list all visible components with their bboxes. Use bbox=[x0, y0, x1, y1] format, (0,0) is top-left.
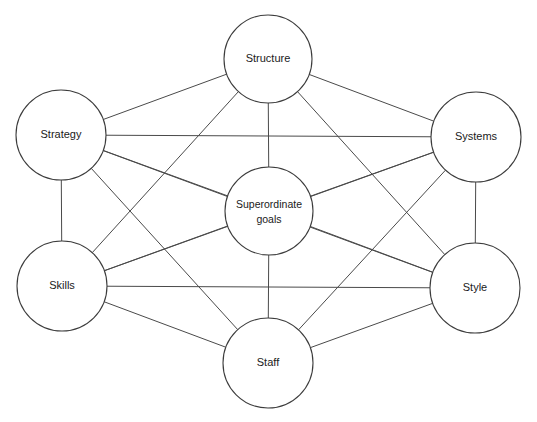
node-label-staff: Staff bbox=[257, 356, 280, 368]
seven-s-canvas: StructureStrategySystemsSuperordinategoa… bbox=[0, 0, 537, 422]
node-label-skills: Skills bbox=[49, 279, 75, 291]
node-label-structure: Structure bbox=[246, 52, 291, 64]
node-label-systems: Systems bbox=[455, 130, 498, 142]
node-label-strategy: Strategy bbox=[41, 128, 82, 140]
edge-staff-to-style bbox=[310, 303, 432, 347]
node-label-superordinate_goals-line2: goals bbox=[256, 213, 281, 225]
edge-skills-to-staff bbox=[104, 302, 226, 347]
node-structure[interactable]: Structure bbox=[224, 15, 312, 103]
node-label-superordinate_goals: Superordinate bbox=[236, 198, 302, 210]
node-label-style: Style bbox=[463, 281, 487, 293]
edge-structure-to-systems bbox=[309, 74, 434, 121]
edge-strategy-to-structure bbox=[103, 74, 226, 119]
node-skills[interactable]: Skills bbox=[17, 241, 107, 331]
seven-s-diagram: StructureStrategySystemsSuperordinategoa… bbox=[0, 0, 537, 422]
node-strategy[interactable]: Strategy bbox=[16, 90, 106, 180]
node-systems[interactable]: Systems bbox=[431, 92, 521, 182]
node-superordinate_goals[interactable]: Superordinategoals bbox=[225, 167, 313, 255]
node-style[interactable]: Style bbox=[430, 243, 520, 333]
node-circle-superordinate_goals[interactable] bbox=[225, 167, 313, 255]
node-staff[interactable]: Staff bbox=[223, 318, 313, 408]
node-layer: StructureStrategySystemsSuperordinategoa… bbox=[16, 15, 521, 408]
